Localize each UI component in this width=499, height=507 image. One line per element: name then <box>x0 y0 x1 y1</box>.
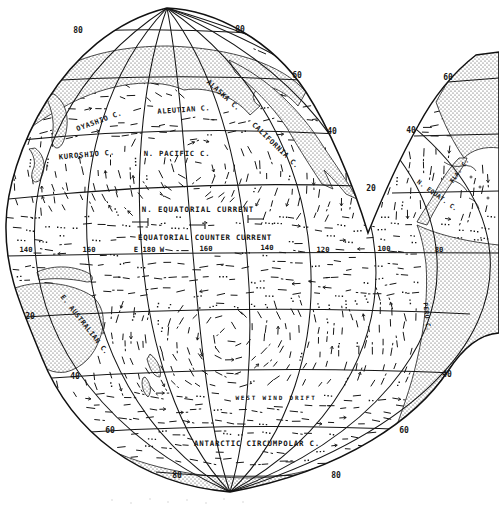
latitude-label: 40 <box>70 372 80 381</box>
latitude-label: 40 <box>442 370 452 379</box>
longitude-label: 140 <box>20 245 33 254</box>
land-masses <box>0 44 499 492</box>
paper-specks <box>111 498 244 504</box>
longitude-label: 80 <box>435 245 444 254</box>
current-label: WEST WIND DRIFT <box>235 394 316 401</box>
current-label: ALEUTIAN C. <box>157 104 210 116</box>
latitude-label: 20 <box>25 312 35 321</box>
longitude-label: E 180 W <box>134 245 165 254</box>
latitude-label: 60 <box>292 71 302 80</box>
land-south-america <box>391 225 499 441</box>
latitude-label: 80 <box>235 25 245 34</box>
latitude-label: 60 <box>399 426 409 435</box>
longitude-label: 120 <box>317 245 330 254</box>
land-asia-coast <box>0 84 29 142</box>
ocean-currents-map: 8080606040402020406040608080 140160E 180… <box>0 0 499 507</box>
current-label: N. EQUATORIAL CURRENT <box>142 205 254 214</box>
longitude-label: 160 <box>83 245 96 254</box>
latitude-label: 60 <box>443 73 453 82</box>
longitude-label: 140 <box>261 243 274 252</box>
latitude-label: 80 <box>172 471 182 480</box>
latitude-label: 40 <box>327 127 337 136</box>
longitude-label: 160 <box>200 244 213 253</box>
land-new-guinea <box>37 267 92 282</box>
current-label: EQUATORIAL COUNTER CURRENT <box>138 233 272 242</box>
latitude-label: 60 <box>105 426 115 435</box>
longitude-label: 100 <box>378 244 391 253</box>
latitude-label: 40 <box>406 126 416 135</box>
current-label: KUROSHIO C. <box>58 148 115 162</box>
current-label: N. PACIFIC C. <box>144 149 211 158</box>
latitude-label: 80 <box>331 471 341 480</box>
latitude-label: 20 <box>366 184 376 193</box>
current-label: ANTARCTIC CIRCUMPOLAR C. <box>194 439 320 448</box>
latitude-label: 80 <box>73 26 83 35</box>
